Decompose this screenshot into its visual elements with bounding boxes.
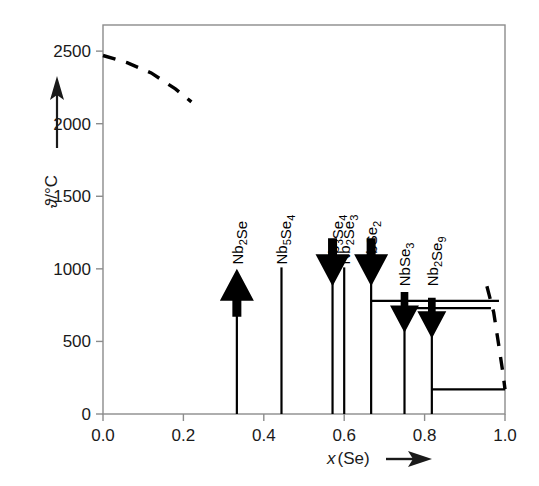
x-tick-label: 0.8 (413, 426, 437, 445)
plot-frame (103, 25, 505, 414)
x-axis-symbol: x (326, 449, 336, 468)
x-tick-label: 0.4 (252, 426, 276, 445)
x-tick-label: 0.6 (332, 426, 356, 445)
x-tick-label: 0.0 (91, 426, 115, 445)
y-tick-label: 2500 (53, 42, 91, 61)
y-axis-title-group: ϑ/°C (42, 76, 64, 208)
y-tick-label: 0 (82, 405, 91, 424)
phase-diagram-svg: 05001000150020002500 0.00.20.40.60.81.0 … (0, 0, 539, 486)
y-tick-label: 500 (63, 332, 91, 351)
phase-diagram-figure: 05001000150020002500 0.00.20.40.60.81.0 … (0, 0, 539, 486)
compound-label-NbSe2: NbSe2 (363, 221, 383, 265)
x-tick-label: 1.0 (493, 426, 517, 445)
y-axis-title: ϑ/°C (42, 175, 61, 208)
x-axis-rest: (Se) (338, 449, 370, 468)
x-axis-ticks (103, 414, 505, 421)
x-tick-label: 0.2 (172, 426, 196, 445)
x-axis-tick-labels: 0.00.20.40.60.81.0 (91, 426, 517, 445)
x-axis-title-group: x(Se) (326, 449, 432, 468)
y-axis-unit: /°C (42, 175, 61, 199)
x-axis-title: x(Se) (326, 449, 370, 468)
y-tick-label: 1000 (53, 260, 91, 279)
y-tick-label: 2000 (53, 115, 91, 134)
compound-label-NbSe3: NbSe3 (397, 243, 417, 287)
y-axis-ticks (96, 51, 103, 414)
y-axis-tick-labels: 05001000150020002500 (53, 42, 91, 424)
